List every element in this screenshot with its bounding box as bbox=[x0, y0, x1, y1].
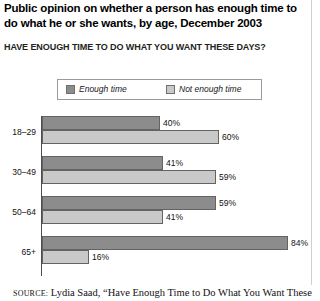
legend-swatch-icon bbox=[66, 85, 75, 94]
bar-row-not-enough-time: 41% bbox=[42, 210, 183, 224]
bar-group: 18–29 40% 60% bbox=[0, 116, 311, 154]
bar-row-not-enough-time: 60% bbox=[42, 130, 239, 144]
bar-group: 65+ 84% 16% bbox=[0, 236, 311, 274]
bar-not-enough-time bbox=[42, 130, 219, 144]
bar-not-enough-time bbox=[42, 250, 89, 264]
category-label: 65+ bbox=[0, 247, 36, 257]
bar-enough-time bbox=[42, 236, 288, 250]
chart-legend: Enough time Not enough time bbox=[57, 79, 262, 100]
source-note: SOURCE: Lydia Saad, “Have Enough Time to… bbox=[13, 286, 313, 300]
category-label: 50–64 bbox=[0, 207, 36, 217]
bar-value-label: 41% bbox=[166, 212, 183, 222]
bar-row-not-enough-time: 59% bbox=[42, 170, 236, 184]
legend-item-enough-time: Enough time bbox=[66, 84, 127, 94]
bar-row-enough-time: 59% bbox=[42, 196, 236, 210]
category-label: 18–29 bbox=[0, 127, 36, 137]
chart-subtitle: HAVE ENOUGH TIME TO DO WHAT YOU WANT THE… bbox=[4, 41, 289, 53]
page-title: Public opinion on whether a person has e… bbox=[4, 1, 304, 31]
bar-group: 50–64 59% 41% bbox=[0, 196, 311, 234]
bar-row-enough-time: 41% bbox=[42, 156, 183, 170]
chart-plot-area: 18–29 40% 60% 30–49 41% 59% 50–6 bbox=[0, 112, 311, 280]
bar-not-enough-time bbox=[42, 210, 163, 224]
bar-enough-time bbox=[42, 116, 160, 130]
legend-item-not-enough-time: Not enough time bbox=[166, 84, 241, 94]
legend-label: Enough time bbox=[79, 84, 127, 94]
legend-label: Not enough time bbox=[179, 84, 241, 94]
chart-figure: Public opinion on whether a person has e… bbox=[0, 0, 311, 301]
category-label: 30–49 bbox=[0, 167, 36, 177]
bar-enough-time bbox=[42, 196, 216, 210]
bar-value-label: 16% bbox=[92, 252, 109, 262]
bar-row-not-enough-time: 16% bbox=[42, 250, 109, 264]
bar-row-enough-time: 40% bbox=[42, 116, 180, 130]
page-column-rule bbox=[311, 0, 312, 285]
legend-swatch-icon bbox=[166, 85, 175, 94]
bar-value-label: 60% bbox=[222, 132, 239, 142]
bar-group: 30–49 41% 59% bbox=[0, 156, 311, 194]
bar-row-enough-time: 84% bbox=[42, 236, 308, 250]
bar-value-label: 40% bbox=[163, 118, 180, 128]
bar-not-enough-time bbox=[42, 170, 216, 184]
bar-value-label: 84% bbox=[291, 238, 308, 248]
bar-value-label: 41% bbox=[166, 158, 183, 168]
source-text: Lydia Saad, “Have Enough Time to Do What… bbox=[51, 287, 312, 298]
bar-enough-time bbox=[42, 156, 163, 170]
bar-value-label: 59% bbox=[219, 172, 236, 182]
source-kicker: SOURCE: bbox=[13, 289, 48, 298]
bar-value-label: 59% bbox=[219, 198, 236, 208]
